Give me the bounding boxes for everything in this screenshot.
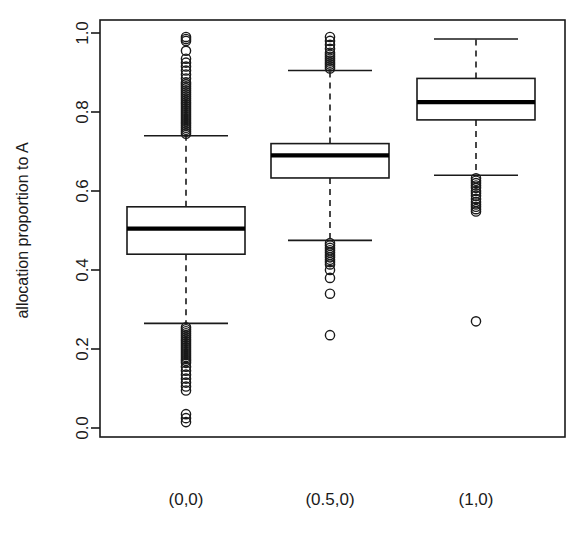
x-tick-label: (0,0) bbox=[169, 490, 204, 509]
y-tick-label: 0.6 bbox=[73, 179, 92, 203]
box bbox=[417, 78, 535, 119]
outlier-point bbox=[471, 317, 480, 326]
y-tick-label: 0.8 bbox=[73, 100, 92, 124]
x-tick-label: (1,0) bbox=[459, 490, 494, 509]
boxplot-chart: 0.00.20.40.60.81.0allocation proportion … bbox=[0, 0, 577, 541]
y-tick-label: 0.4 bbox=[73, 258, 92, 282]
y-tick-label: 0.0 bbox=[73, 416, 92, 440]
y-tick-label: 1.0 bbox=[73, 21, 92, 45]
outlier-point bbox=[325, 289, 334, 298]
box bbox=[271, 144, 389, 178]
y-axis-title: allocation proportion to A bbox=[14, 142, 31, 318]
boxplot-figure: 0.00.20.40.60.81.0allocation proportion … bbox=[0, 0, 577, 541]
outlier-point bbox=[325, 331, 334, 340]
y-tick-label: 0.2 bbox=[73, 337, 92, 361]
x-tick-label: (0.5,0) bbox=[305, 490, 354, 509]
